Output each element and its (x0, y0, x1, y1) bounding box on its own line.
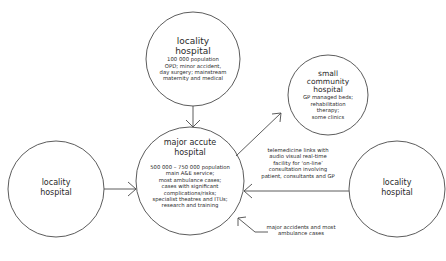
hospital-network-diagram: locality hospital 100 000 population OPD… (0, 0, 446, 261)
node-title: hospital (313, 86, 343, 94)
note-line: patient, consultants and GP (248, 173, 348, 179)
node-title: major accute (164, 138, 216, 148)
node-title: locality (177, 36, 209, 46)
node-title: locality (383, 178, 412, 188)
accidents-note: major accidents and most ambulance cases (256, 224, 346, 237)
telemedicine-note: telemedicine links with audio visual rea… (248, 147, 348, 179)
node-title: hospital (381, 188, 413, 198)
node-desc: maternity and medical (163, 75, 223, 81)
node-title: locality (42, 178, 71, 188)
node-desc: some clinics (312, 114, 344, 120)
node-major-acute-hospital: major accute hospital 500 000 – 750 000 … (138, 138, 242, 228)
node-top-locality-hospital: locality hospital 100 000 population OPD… (148, 16, 238, 102)
node-title: hospital (174, 148, 206, 158)
node-left-locality-hospital: locality hospital (16, 170, 96, 206)
node-small-community-hospital: small community hospital GP managed beds… (290, 58, 366, 132)
node-desc: research and training (162, 202, 219, 208)
node-right-locality-hospital: locality hospital (357, 170, 437, 206)
note-line: ambulance cases (256, 230, 346, 236)
node-title: hospital (40, 188, 72, 198)
node-title: hospital (175, 46, 211, 56)
